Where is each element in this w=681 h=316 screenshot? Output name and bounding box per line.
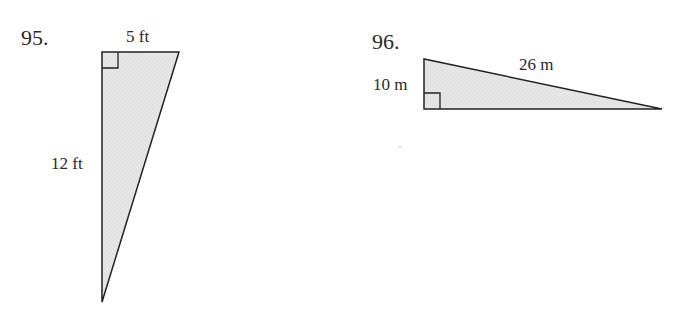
triangle-95 [102,52,179,302]
problem-number-95: 95. [21,27,49,49]
label-left-side-95: 12 ft [51,155,83,172]
speck [399,146,401,148]
diagram-canvas [0,0,681,316]
problem-number-96: 96. [372,31,400,53]
label-left-side-96: 10 m [373,76,407,93]
label-top-side-95: 5 ft [126,28,149,45]
label-hypotenuse-96: 26 m [519,56,553,73]
